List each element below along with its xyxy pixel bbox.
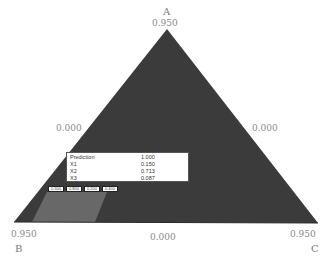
vertex-a-value: 0.950 bbox=[152, 18, 178, 28]
region-tag: 0.400 bbox=[102, 186, 118, 192]
vertex-c-label: C bbox=[311, 243, 319, 254]
vertex-b-value: 0.950 bbox=[11, 229, 37, 239]
prediction-row: X2 0.713 bbox=[70, 168, 188, 175]
left-edge-label: 0.000 bbox=[56, 123, 82, 133]
vertex-c-value: 0.950 bbox=[290, 229, 316, 239]
bottom-edge-label: 0.000 bbox=[150, 232, 176, 242]
prediction-key: Prediction bbox=[70, 154, 94, 161]
prediction-value: 0.713 bbox=[141, 168, 155, 175]
region-tag: 0.800 bbox=[66, 186, 82, 192]
prediction-key: X2 bbox=[70, 168, 77, 175]
prediction-tooltip: Prediction 1.000 X1 0.150 X2 0.713 X3 0.… bbox=[66, 152, 189, 182]
prediction-value: 0.150 bbox=[141, 161, 155, 168]
ternary-plot bbox=[0, 0, 330, 264]
region-tag: 0.300 bbox=[48, 186, 64, 192]
prediction-row: X1 0.150 bbox=[70, 161, 188, 168]
prediction-row: Prediction 1.000 bbox=[70, 154, 188, 161]
prediction-key: X3 bbox=[70, 175, 77, 182]
right-edge-label: 0.000 bbox=[252, 123, 278, 133]
vertex-a-label: A bbox=[163, 6, 170, 17]
region-tag: 0.200 bbox=[84, 186, 100, 192]
vertex-b-label: B bbox=[15, 243, 22, 254]
prediction-value: 0.087 bbox=[141, 175, 155, 182]
prediction-value: 1.000 bbox=[141, 154, 155, 161]
prediction-key: X1 bbox=[70, 161, 77, 168]
prediction-row: X3 0.087 bbox=[70, 175, 188, 182]
